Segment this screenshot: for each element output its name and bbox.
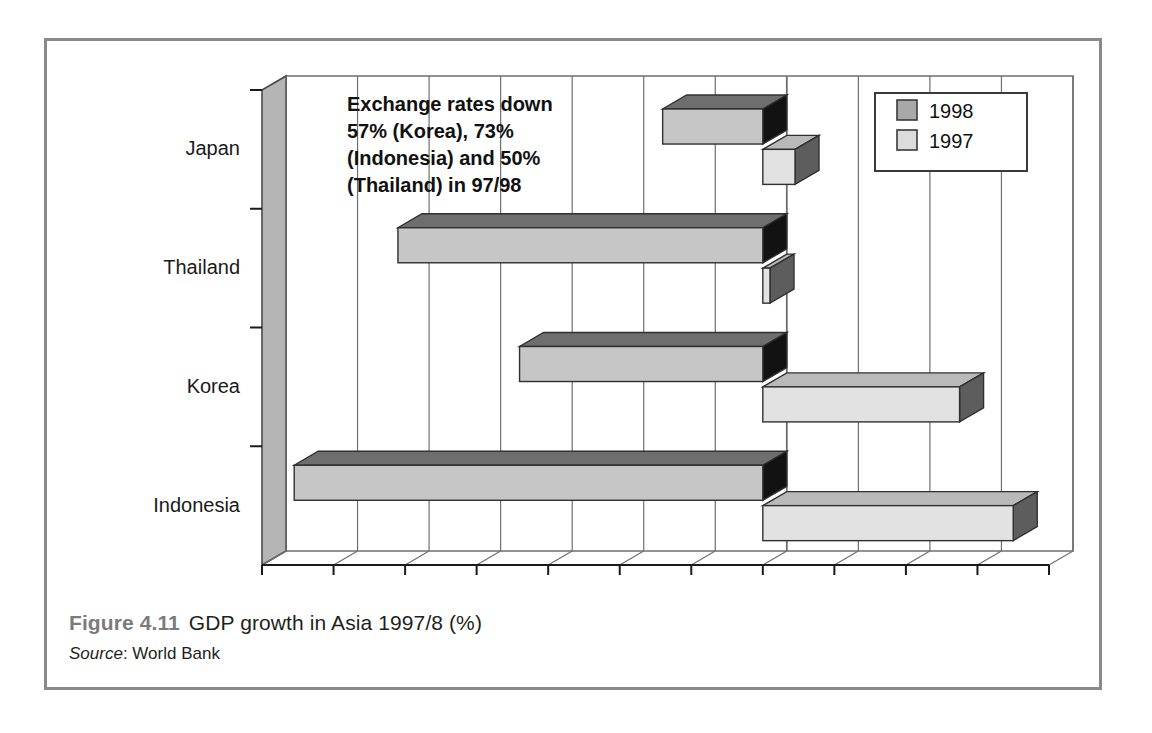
- category-label-indonesia: Indonesia: [153, 494, 241, 516]
- gdp-growth-bar-chart: −14−12−10−8−6−4−202468JapanThailandKorea…: [47, 41, 1105, 581]
- chart-left-wall: [262, 76, 286, 565]
- gridline-depth-connector: [334, 551, 358, 565]
- annotation-line-1: Exchange rates down: [347, 93, 553, 115]
- gridline-depth-connector: [763, 551, 787, 565]
- x-axis-tick-label: −12: [316, 580, 352, 581]
- gridline-depth-connector: [620, 551, 644, 565]
- annotation-line-3: (Indonesia) and 50%: [347, 147, 541, 169]
- x-axis-tick-label: −14: [244, 580, 280, 581]
- x-axis-tick-label: −2: [679, 580, 703, 581]
- bar-korea-1997-top-face: [763, 373, 984, 387]
- gridline-depth-connector: [691, 551, 715, 565]
- gridline-depth-connector: [977, 551, 1001, 565]
- category-label-japan: Japan: [186, 137, 241, 159]
- figure-number: Figure 4.11: [69, 611, 180, 634]
- legend-label-1997: 1997: [929, 130, 974, 152]
- bar-korea-1998-top-face: [520, 333, 787, 347]
- caption-source-line: Source: World Bank: [69, 644, 1029, 664]
- x-axis-tick-label: −10: [387, 580, 423, 581]
- legend-swatch-1997: [897, 130, 917, 150]
- legend-label-1998: 1998: [929, 100, 974, 122]
- bar-indonesia-1997-front-face: [763, 506, 1013, 541]
- bar-japan-1997-front-face: [763, 149, 795, 184]
- x-axis-tick-label: 8: [1043, 580, 1055, 581]
- bar-korea-1998-front-face: [520, 347, 763, 382]
- bar-thailand-1998: [398, 214, 787, 263]
- figure-caption: Figure 4.11GDP growth in Asia 1997/8 (%)…: [69, 611, 1029, 664]
- bar-indonesia-1998-front-face: [294, 465, 763, 500]
- source-separator: :: [123, 644, 132, 663]
- gridline-depth-connector: [906, 551, 930, 565]
- x-axis-tick-label: −8: [465, 580, 489, 581]
- gridline-depth-connector: [1049, 551, 1073, 565]
- gridline-depth-connector: [548, 551, 572, 565]
- bar-indonesia-1997: [763, 492, 1037, 541]
- x-axis-tick-label: 6: [972, 580, 984, 581]
- source-label: Source: [69, 644, 123, 663]
- bar-thailand-1998-top-face: [398, 214, 787, 228]
- figure-title: GDP growth in Asia 1997/8 (%): [189, 611, 482, 634]
- annotation-line-2: 57% (Korea), 73%: [347, 120, 514, 142]
- bar-japan-1998: [663, 95, 787, 144]
- bar-thailand-1998-front-face: [398, 228, 763, 263]
- x-axis-tick-label: 0: [757, 580, 769, 581]
- bar-thailand-1997-front-face: [763, 268, 770, 303]
- source-value: World Bank: [132, 644, 220, 663]
- bar-indonesia-1997-top-face: [763, 492, 1037, 506]
- gridline-depth-connector: [405, 551, 429, 565]
- chart-plot-area: −14−12−10−8−6−4−202468JapanThailandKorea…: [47, 41, 1105, 581]
- figure-root: −14−12−10−8−6−4−202468JapanThailandKorea…: [0, 0, 1152, 733]
- bar-japan-1998-front-face: [663, 109, 763, 144]
- bar-indonesia-1998-top-face: [294, 451, 787, 465]
- legend-swatch-1998: [897, 100, 917, 120]
- bar-korea-1997: [763, 373, 984, 422]
- bar-korea-1998: [520, 333, 787, 382]
- x-axis-tick-label: −4: [608, 580, 632, 581]
- annotation-line-4: (Thailand) in 97/98: [347, 174, 521, 196]
- bar-indonesia-1998: [294, 451, 787, 500]
- gridline-depth-connector: [834, 551, 858, 565]
- caption-title-line: Figure 4.11GDP growth in Asia 1997/8 (%): [69, 611, 1029, 635]
- category-label-korea: Korea: [187, 375, 241, 397]
- x-axis-tick-label: −6: [536, 580, 560, 581]
- category-label-thailand: Thailand: [163, 256, 240, 278]
- x-axis-tick-label: 4: [900, 580, 912, 581]
- figure-frame: −14−12−10−8−6−4−202468JapanThailandKorea…: [44, 38, 1102, 690]
- x-axis-tick-label: 2: [829, 580, 841, 581]
- gridline-depth-connector: [477, 551, 501, 565]
- bar-korea-1997-front-face: [763, 387, 960, 422]
